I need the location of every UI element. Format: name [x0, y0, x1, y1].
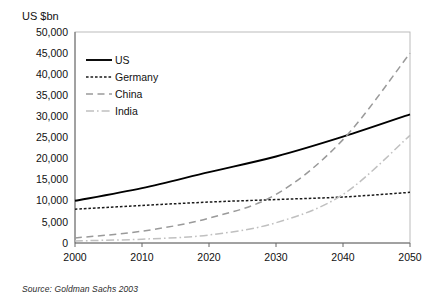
legend-label-china: China [115, 88, 143, 100]
series-line-us [75, 114, 410, 201]
x-tick-label: 2030 [264, 251, 288, 263]
y-tick-label: 15,000 [36, 173, 68, 185]
y-tick-label: 40,000 [36, 68, 68, 80]
y-axis-tick-labels: 05,00010,00015,00020,00025,00030,00035,0… [36, 26, 68, 249]
y-tick-label: 50,000 [36, 26, 68, 38]
y-tick-label: 0 [62, 237, 68, 249]
chart-figure: US $bn 05,00010,00015,00020,00025,00030,… [0, 0, 442, 307]
legend-label-us: US [115, 54, 130, 66]
x-tick-label: 2000 [63, 251, 87, 263]
y-tick-label: 45,000 [36, 47, 68, 59]
x-tick-label: 2050 [398, 251, 422, 263]
series-line-germany [75, 192, 410, 209]
legend-label-germany: Germany [115, 71, 159, 83]
y-tick-label: 5,000 [42, 216, 68, 228]
y-tick-label: 20,000 [36, 152, 68, 164]
y-tick-label: 35,000 [36, 89, 68, 101]
series-line-india [75, 135, 410, 241]
x-tick-label: 2010 [130, 251, 154, 263]
y-tick-label: 10,000 [36, 194, 68, 206]
legend-label-india: India [115, 105, 138, 117]
y-tick-label: 30,000 [36, 110, 68, 122]
source-note: Source: Goldman Sachs 2003 [22, 284, 138, 294]
chart-legend: USGermanyChinaIndia [86, 54, 159, 117]
x-axis-tick-labels: 200020102020203020402050 [63, 251, 422, 263]
line-chart-plot: 05,00010,00015,00020,00025,00030,00035,0… [0, 0, 442, 307]
x-tick-label: 2040 [331, 251, 355, 263]
x-tick-label: 2020 [197, 251, 221, 263]
y-tick-label: 25,000 [36, 131, 68, 143]
